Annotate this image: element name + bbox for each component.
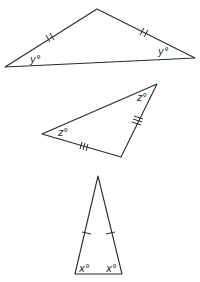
triangle-y: y° y°	[5, 9, 195, 67]
angle-label-y-left: y°	[29, 54, 41, 65]
angle-label-z-right: z°	[136, 92, 147, 103]
single-tick-mark-left	[82, 232, 91, 234]
triple-tick-mark-bottom	[80, 142, 88, 151]
single-tick-mark-right	[106, 232, 115, 234]
angle-label-x-left: x°	[78, 263, 90, 274]
triangles-diagram: y° y° z° z° x° x°	[0, 0, 200, 282]
angle-label-y-right: y°	[157, 46, 169, 57]
angle-label-z-left: z°	[57, 127, 68, 138]
triangle-x-outline	[75, 176, 122, 274]
triangle-x: x° x°	[75, 176, 122, 274]
triangle-z: z° z°	[42, 84, 157, 157]
triple-tick-mark-right	[132, 116, 143, 125]
angle-label-x-right: x°	[105, 263, 117, 274]
